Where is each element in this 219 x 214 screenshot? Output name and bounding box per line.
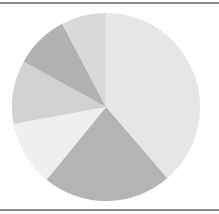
- bottom-border-rule: [0, 209, 219, 211]
- pie-chart: [0, 0, 219, 214]
- pie-slices: [12, 13, 200, 201]
